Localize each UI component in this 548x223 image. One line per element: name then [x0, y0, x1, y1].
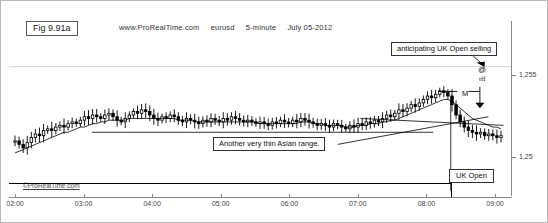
time-label: 02:00	[6, 200, 24, 207]
time-label: 07:00	[349, 200, 367, 207]
figure-tag: Fig 9.91a	[26, 21, 78, 36]
price-axis-line	[511, 21, 512, 196]
time-label: 03:00	[75, 200, 93, 207]
chart-header: www.ProRealTime.com eurusd 5-minute July…	[119, 23, 341, 32]
time-label: 05:00	[212, 200, 230, 207]
entry-at-marker: @	[478, 65, 486, 74]
price-label-upper: 1,255	[519, 71, 537, 78]
price-tick-upper	[512, 75, 516, 76]
annotation-anticipating-uk-open-selling: anticipating UK Open selling	[391, 42, 497, 56]
measure-m-label: M	[462, 89, 468, 98]
header-source: www.ProRealTime.com	[119, 23, 200, 32]
time-tick	[15, 194, 16, 198]
time-tick	[84, 194, 85, 198]
header-date: July 05-2012	[287, 23, 332, 32]
time-tick	[426, 194, 427, 198]
header-instrument: eurusd	[211, 23, 235, 32]
header-timeframe: 5-minute	[246, 23, 276, 32]
price-plot-area	[9, 39, 511, 191]
chart-figure: Fig 9.91a www.ProRealTime.com eurusd 5-m…	[0, 0, 548, 223]
annotation-asian-range: Another very thin Asian range.	[213, 137, 325, 151]
time-tick	[152, 194, 153, 198]
time-label: 09:00	[486, 200, 504, 207]
candlestick-svg	[9, 39, 511, 191]
price-label-lower: 1,25	[519, 153, 533, 160]
uk-open-leader-line	[451, 183, 452, 197]
time-label: 08:00	[418, 200, 436, 207]
time-tick	[495, 194, 496, 198]
annotation-uk-open: UK Open	[449, 169, 494, 183]
uk-open-box-connector	[9, 183, 451, 184]
time-tick	[221, 194, 222, 198]
price-tick-lower	[512, 157, 516, 158]
time-label: 04:00	[143, 200, 161, 207]
tff-marker: tff	[479, 75, 485, 83]
time-tick	[289, 194, 290, 198]
time-label: 06:00	[281, 200, 299, 207]
time-tick	[358, 194, 359, 198]
